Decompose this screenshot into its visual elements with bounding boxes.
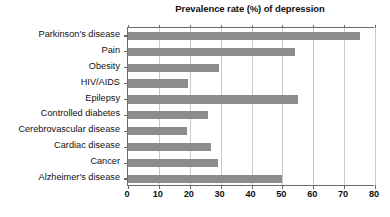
bar-row [128,139,375,155]
bar-row [128,171,375,187]
x-axis-label: 40 [236,189,266,199]
y-axis-label: HIV/AIDS [0,77,120,87]
y-axis-tick [124,115,128,116]
bar [128,143,211,151]
y-axis-label: Cancer [0,156,120,166]
y-axis-label: Obesity [0,61,120,71]
bar [128,48,295,56]
bar [128,79,188,87]
x-axis-tick-top [375,25,376,29]
x-axis-label: 0 [112,189,142,199]
bar-row [128,60,375,76]
bar-row [128,44,375,60]
y-axis-category-labels: Parkinson's diseasePainObesityHIV/AIDSEp… [0,27,124,186]
y-axis-tick [124,35,128,36]
bar-row [128,28,375,44]
plot-area [127,27,374,186]
y-axis-label: Parkinson's disease [0,29,120,39]
x-axis-label: 10 [143,189,173,199]
x-axis-label: 20 [174,189,204,199]
bar-row [128,108,375,124]
y-axis-tick [124,67,128,68]
y-axis-tick [124,51,128,52]
y-axis-label: Epilepsy [0,93,120,103]
y-axis-label: Cerebrovascular disease [0,124,120,134]
bar [128,32,360,40]
bar-row [128,123,375,139]
y-axis-label: Alzheimer's disease [0,172,120,182]
chart-title: Prevalence rate (%) of depression [120,3,380,14]
bar-row [128,155,375,171]
y-axis-label: Controlled diabetes [0,108,120,118]
x-axis-label: 80 [359,189,389,199]
y-axis-label: Cardiac disease [0,140,120,150]
bar [128,127,187,135]
x-axis-label: 50 [266,189,296,199]
x-axis-label: 70 [328,189,358,199]
x-axis-label: 30 [205,189,235,199]
y-axis-tick [124,131,128,132]
bar [128,64,219,72]
bar-row [128,92,375,108]
bar [128,95,298,103]
x-axis-label: 60 [297,189,327,199]
bar [128,159,218,167]
y-axis-tick [124,83,128,84]
y-axis-tick [124,99,128,100]
bar-chart: Prevalence rate (%) of depression Parkin… [0,0,390,217]
x-axis-tick-labels: 01020304050607080 [0,189,390,205]
bar [128,111,208,119]
y-axis-tick [124,147,128,148]
bar-row [128,76,375,92]
y-axis-tick [124,178,128,179]
gridline [375,28,376,185]
bar [128,175,282,183]
y-axis-label: Pain [0,45,120,55]
y-axis-tick [124,163,128,164]
